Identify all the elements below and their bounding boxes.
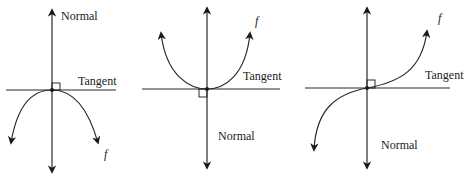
panel-inflection: Normal Tangent f: [305, 8, 464, 168]
normal-label: Normal: [218, 129, 255, 143]
point-of-tangency: [205, 87, 209, 91]
tangent-normal-diagram: Normal Tangent f Normal Tangent f Normal…: [0, 0, 467, 183]
curve-label-f: f: [104, 147, 109, 161]
tangent-label: Tangent: [78, 74, 117, 88]
point-of-tangency: [50, 88, 54, 92]
panel-concave-down: Normal Tangent f: [6, 9, 117, 172]
curve-f: [314, 31, 427, 150]
normal-label: Normal: [61, 9, 98, 23]
tangent-label: Tangent: [243, 69, 282, 83]
curve-label-f: f: [255, 14, 260, 28]
curve-f: [161, 33, 250, 89]
panel-concave-up: Normal Tangent f: [142, 8, 282, 168]
tangent-label: Tangent: [425, 68, 464, 82]
curve-label-f: f: [438, 11, 443, 25]
curve-f: [11, 90, 98, 143]
normal-label: Normal: [381, 138, 418, 152]
point-of-tangency: [365, 86, 369, 90]
